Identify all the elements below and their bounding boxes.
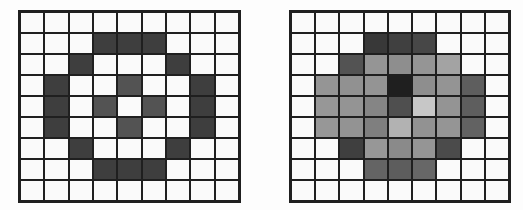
grid-cell [167, 118, 189, 137]
grid-cell [462, 34, 484, 53]
grid-cell [118, 34, 140, 53]
grid-cell [389, 160, 411, 179]
grid-cell [365, 34, 387, 53]
grid-cell [70, 13, 92, 32]
grid-cell [365, 13, 387, 32]
grid-cell [413, 118, 435, 137]
grid-cell [365, 181, 387, 200]
grid-cell [191, 181, 213, 200]
grid-cell [94, 181, 116, 200]
grid-cell [462, 139, 484, 158]
grid-cell [340, 76, 362, 95]
grid-cell [45, 181, 67, 200]
grid-cell [316, 76, 338, 95]
grid-cell [167, 181, 189, 200]
grid-cell [118, 181, 140, 200]
grid-cell [316, 181, 338, 200]
grid-cell [486, 13, 508, 32]
grid-cell [45, 34, 67, 53]
grid-cell [365, 118, 387, 137]
grid-cell [216, 13, 238, 32]
grid-cell [437, 55, 459, 74]
grid-cell [340, 181, 362, 200]
pixel-grid-original [18, 10, 241, 203]
grid-cell [316, 139, 338, 158]
grid-cell [437, 139, 459, 158]
grid-cell [389, 55, 411, 74]
grid-cell [191, 118, 213, 137]
grid-cell [389, 118, 411, 137]
grid-cell [292, 34, 314, 53]
grid-cell [167, 139, 189, 158]
grid-cell [316, 34, 338, 53]
grid-cell [143, 181, 165, 200]
grid-cell [437, 76, 459, 95]
grid-cell [45, 118, 67, 137]
grid-cell [486, 181, 508, 200]
grid-cell [413, 13, 435, 32]
grid-cell [118, 13, 140, 32]
grid-cell [365, 97, 387, 116]
grid-cell [413, 76, 435, 95]
grid-cell [340, 118, 362, 137]
grid-cell [216, 160, 238, 179]
grid-cell [389, 181, 411, 200]
grid-cell [21, 13, 43, 32]
grid-cell [118, 160, 140, 179]
grid-cell [389, 13, 411, 32]
grid-cell [167, 55, 189, 74]
pixel-grid-smoothed [289, 10, 511, 203]
grid-cell [216, 76, 238, 95]
grid-cell [437, 181, 459, 200]
grid-cell [389, 139, 411, 158]
grid-cell [143, 13, 165, 32]
grid-cell [21, 160, 43, 179]
grid-cell [70, 34, 92, 53]
grid-cell [167, 76, 189, 95]
grid-cell [21, 97, 43, 116]
grid-cell [94, 76, 116, 95]
grid-cell [292, 118, 314, 137]
grid-cell [45, 13, 67, 32]
grid-cell [462, 160, 484, 179]
grid-cell [118, 76, 140, 95]
grid-cell [143, 76, 165, 95]
grid-cell [316, 118, 338, 137]
grid-cell [191, 13, 213, 32]
grid-cell [21, 118, 43, 137]
grid-cell [94, 34, 116, 53]
grid-cell [486, 55, 508, 74]
grid-cell [191, 97, 213, 116]
grid-cell [316, 160, 338, 179]
grid-cell [413, 55, 435, 74]
grid-cell [118, 97, 140, 116]
figure-two-pixel-grids [0, 0, 523, 210]
grid-cell [365, 76, 387, 95]
grid-cell [486, 160, 508, 179]
grid-cell [437, 97, 459, 116]
grid-cell [340, 55, 362, 74]
grid-cell [70, 55, 92, 74]
grid-cell [167, 34, 189, 53]
grid-cell [462, 118, 484, 137]
grid-cell [462, 55, 484, 74]
grid-cell [21, 181, 43, 200]
grid-cell [389, 97, 411, 116]
grid-cell [340, 139, 362, 158]
grid-cell [216, 118, 238, 137]
grid-cell [45, 55, 67, 74]
grid-cell [143, 34, 165, 53]
grid-cell [143, 97, 165, 116]
grid-cell [94, 13, 116, 32]
grid-cell [292, 13, 314, 32]
grid-cell [118, 139, 140, 158]
grid-cell [462, 181, 484, 200]
grid-cell [437, 160, 459, 179]
grid-cell [118, 55, 140, 74]
grid-cell [70, 160, 92, 179]
grid-cell [316, 55, 338, 74]
grid-cell [143, 118, 165, 137]
grid-cell [316, 13, 338, 32]
grid-cell [292, 55, 314, 74]
grid-cell [45, 139, 67, 158]
